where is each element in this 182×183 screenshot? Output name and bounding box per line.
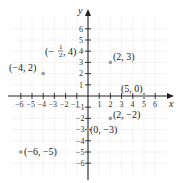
label-part: , 4) [63,46,76,58]
y-tick-label: −5 [76,148,85,157]
x-tick-label: 1 [98,100,102,109]
point-neg6-neg5 [19,150,23,154]
point-label-neg6-neg5: (−6, −5) [24,146,57,158]
x-tick-label: 5 [142,100,146,109]
x-tick-labels: −6 −5 −4 −3 −2 −1 1 2 3 4 5 6 [15,100,157,109]
point-label-2-3: (2, 3) [113,51,135,63]
coordinate-plane: x y −6 −5 −4 −3 −2 −1 1 2 3 4 5 6 [0,0,182,183]
x-axis-label: x [168,98,174,109]
x-tick-label: 3 [120,100,124,109]
y-tick-label: −2 [76,114,85,123]
y-tick-label: 3 [79,58,83,67]
x-tick-label: −2 [60,100,69,109]
point-label-neg4-2: (−4, 2) [9,62,36,74]
point-neg4-2 [41,72,45,76]
y-tick-label: −1 [76,103,85,112]
x-tick-label: 4 [131,100,135,109]
point-2-3 [109,61,113,65]
label-part: (− [45,46,54,58]
point-2-neg2 [109,117,113,121]
y-axis-label: y [77,5,83,16]
y-tick-label: 2 [79,69,83,78]
x-tick-label: 6 [153,100,157,109]
x-tick-label: −6 [15,100,24,109]
point-label-neghalf-4: (− 1 2 , 4) [45,43,76,59]
point-neghalf-4 [81,50,83,52]
y-tick-label: 1 [79,81,83,90]
y-tick-label: −4 [76,137,85,146]
y-axis-arrow-icon [85,9,91,16]
x-tick-label: −4 [38,100,47,109]
y-tick-label: 5 [79,36,83,45]
x-tick-label: 2 [109,100,113,109]
point-label-5-0: (5, 0) [121,83,143,95]
x-tick-label: −5 [27,100,36,109]
y-tick-label: −6 [76,159,85,168]
point-label-0-neg3: (0, −3) [90,124,117,136]
point-5-0 [142,94,146,98]
x-tick-label: −3 [49,100,58,109]
point-label-2-neg2: (2, −2) [113,109,140,121]
y-tick-label: −3 [76,125,85,134]
y-tick-label: 6 [79,25,83,34]
